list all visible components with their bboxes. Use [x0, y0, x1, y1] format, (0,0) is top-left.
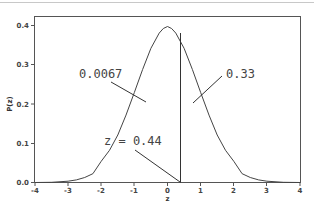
y-axis: [31, 26, 35, 183]
y-tick-label: 0.2: [17, 101, 30, 109]
x-tick-label: -1: [130, 187, 138, 195]
anno-z-pointer: [135, 150, 180, 182]
density-curve: [35, 27, 300, 183]
y-tick-label: 0.3: [17, 61, 30, 69]
anno-z-label: z = 0.44: [104, 134, 162, 148]
anno-right-label: 0.33: [226, 67, 255, 81]
y-tick-label: 0.1: [17, 140, 30, 148]
anno-left-pointer: [111, 82, 146, 102]
x-tick-label: -2: [97, 187, 105, 195]
x-axis-title: z: [165, 195, 169, 203]
y-axis-title: P(z): [6, 96, 14, 112]
x-tick-label: -4: [31, 187, 39, 195]
y-tick-label: 0.0: [17, 179, 30, 187]
x-tick-label: 1: [198, 187, 203, 195]
y-tick-label: 0.4: [17, 22, 30, 30]
anno-right-pointer: [193, 76, 222, 103]
x-tick-label: 0: [165, 187, 170, 195]
anno-left-label: 0.0067: [79, 67, 122, 81]
chart: 0.0 0.1 0.2 0.3 0.4 -4 -3 -2 -1 0 1 2 3 …: [0, 0, 314, 207]
x-tick-label: 2: [231, 187, 236, 195]
x-tick-label: 3: [264, 187, 269, 195]
x-tick-label: -3: [64, 187, 72, 195]
x-tick-label: 4: [298, 187, 303, 195]
plot-area: [35, 17, 301, 183]
x-axis: [35, 183, 300, 187]
